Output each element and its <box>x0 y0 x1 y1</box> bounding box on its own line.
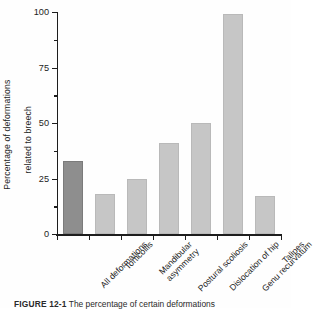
y-tick-label-50: 50 <box>39 118 49 128</box>
bar-dislocation-of-hip <box>191 123 211 234</box>
y-tick-75 <box>52 68 57 69</box>
figure-caption-text: The percentage of certain deformations <box>69 299 215 309</box>
plot-area: 0255075100 <box>57 12 281 234</box>
y-tick-100 <box>52 12 57 13</box>
bar-mandibular-asymmetry <box>127 179 147 235</box>
y-tick-label-0: 0 <box>44 229 49 239</box>
x-tick-1 <box>89 234 90 240</box>
bar-postural-scoliosis <box>159 143 179 234</box>
y-tick-50 <box>52 123 57 124</box>
y-axis-title-line1: Percentage of deformations <box>2 80 12 190</box>
x-tick-3 <box>153 234 154 240</box>
x-axis-label-mandibular-asymmetry: Mandibularasymmetry <box>157 240 201 284</box>
y-tick-25 <box>52 179 57 180</box>
x-tick-6 <box>249 234 250 240</box>
y-tick-label-100: 100 <box>34 7 49 17</box>
bar-all-deformations <box>63 161 83 234</box>
y-minor-tick-12.5 <box>54 206 58 207</box>
x-tick-2 <box>121 234 122 240</box>
figure-caption: FIGURE 12-1 The percentage of certain de… <box>14 299 284 309</box>
y-tick-label-75: 75 <box>39 63 49 73</box>
figure-caption-label: FIGURE 12-1 <box>14 299 67 309</box>
x-tick-end <box>281 234 282 240</box>
bar-genu-recurvatum <box>223 14 243 234</box>
y-minor-tick-37.5 <box>54 151 58 152</box>
y-tick-label-25: 25 <box>39 174 49 184</box>
x-tick-5 <box>217 234 218 240</box>
y-minor-tick-87.5 <box>54 40 58 41</box>
y-axis-line <box>57 12 58 234</box>
y-minor-tick-62.5 <box>54 95 58 96</box>
x-tick-0 <box>57 234 58 240</box>
y-axis-title-line2: related to breech <box>23 45 34 235</box>
y-axis-title: Percentage of deformations related to br… <box>0 45 55 235</box>
bar-talipes <box>255 196 275 234</box>
bar-torticollis <box>95 194 115 234</box>
